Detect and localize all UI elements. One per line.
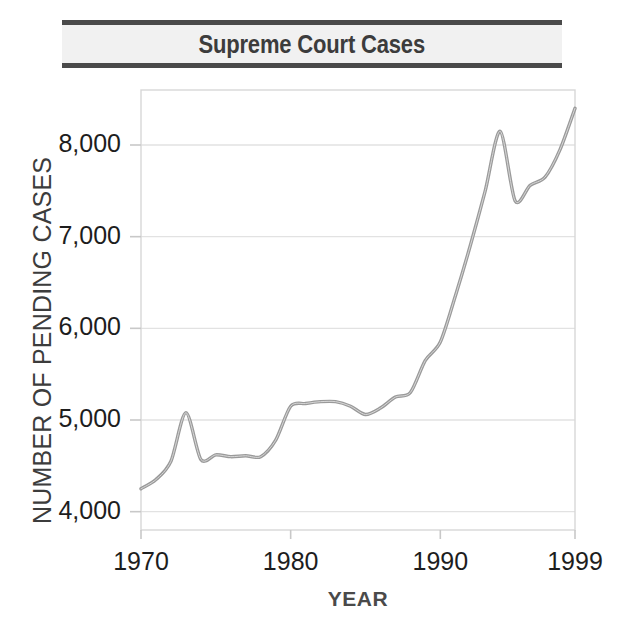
x-tick-label: 1980 bbox=[231, 547, 351, 576]
data-series bbox=[141, 108, 575, 488]
x-tick-label: 1999 bbox=[515, 547, 624, 576]
x-tick-label: 1990 bbox=[380, 547, 500, 576]
grid-lines bbox=[141, 145, 575, 512]
chart-title-block: Supreme Court Cases bbox=[62, 20, 562, 68]
title-band: Supreme Court Cases bbox=[62, 25, 562, 63]
y-tick-label: 4,000 bbox=[58, 496, 121, 525]
y-axis-label: NUMBER OF PENDING CASES bbox=[28, 157, 57, 524]
y-tick-label: 7,000 bbox=[58, 221, 121, 250]
page-title: Supreme Court Cases bbox=[199, 30, 426, 59]
plot-frame bbox=[141, 90, 575, 530]
y-tick-label: 6,000 bbox=[58, 312, 121, 341]
y-tick-label: 8,000 bbox=[58, 129, 121, 158]
y-tick-label: 5,000 bbox=[58, 404, 121, 433]
axis-ticks bbox=[130, 145, 575, 539]
x-axis-label: YEAR bbox=[238, 587, 478, 611]
chart-container: 4,0005,0006,0007,0008,000 19701980199019… bbox=[0, 68, 624, 618]
x-tick-label: 1970 bbox=[81, 547, 201, 576]
